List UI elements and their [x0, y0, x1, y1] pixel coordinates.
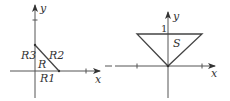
- right-y-tick-label: 1: [161, 23, 167, 34]
- left-point-x: [58, 70, 60, 72]
- right-origin: [167, 65, 170, 68]
- diagram-canvas: y x R3 R2 R R1 y x 1 S: [0, 0, 230, 101]
- region-r-label: R: [37, 58, 46, 71]
- region-r3-label: R3: [20, 49, 36, 62]
- left-figure: y x R3 R2 R R1: [10, 2, 112, 98]
- right-x-label: x: [211, 67, 218, 80]
- triangle-s: [137, 34, 202, 66]
- right-figure: y x 1 S: [115, 10, 218, 98]
- left-x-label: x: [95, 73, 102, 86]
- region-r2-label: R2: [48, 49, 64, 62]
- region-r1-label: R1: [39, 72, 55, 85]
- region-s-label: S: [173, 37, 181, 50]
- left-y-label: y: [39, 2, 47, 15]
- right-y-label: y: [172, 10, 180, 23]
- left-point-y: [34, 44, 36, 46]
